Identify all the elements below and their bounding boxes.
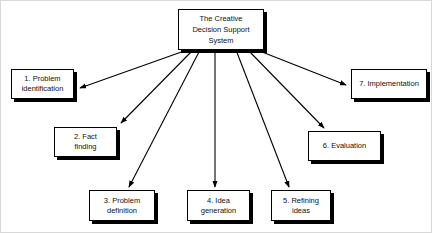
node-label: 7. Implementation [356,79,422,89]
node-label: 2. Fact finding [71,132,100,152]
node-fact-finding[interactable]: 2. Fact finding [54,127,117,157]
node-idea-generation[interactable]: 4. Idea generation [187,190,250,221]
node-label: 4. Idea generation [198,196,239,216]
diagram-canvas: The Creative Decision Support System 1. … [0,0,432,233]
arrow-to-node-7 [257,50,346,85]
node-problem-definition[interactable]: 3. Problem definition [89,190,155,221]
node-problem-identification[interactable]: 1. Problem identification [11,69,74,99]
node-label: 5. Refining ideas [280,196,322,216]
node-label: 6. Evaluation [320,141,369,151]
arrow-to-node-5 [236,50,289,187]
arrow-to-node-1 [80,50,187,88]
arrow-to-node-3 [129,50,200,187]
node-label: 1. Problem identification [19,74,67,94]
node-implementation[interactable]: 7. Implementation [351,69,427,99]
central-node-label: The Creative Decision Support System [189,13,252,46]
central-node[interactable]: The Creative Decision Support System [178,9,264,50]
node-refining-ideas[interactable]: 5. Refining ideas [271,190,331,221]
node-label: 3. Problem definition [101,196,143,216]
node-evaluation[interactable]: 6. Evaluation [308,131,381,161]
